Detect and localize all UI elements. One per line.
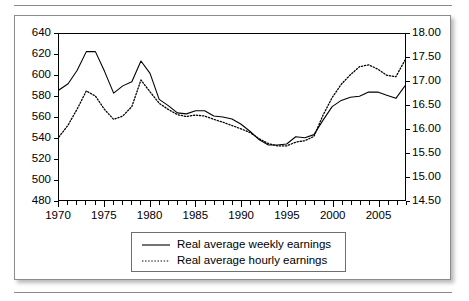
plot-area xyxy=(58,33,406,201)
series-line-weekly xyxy=(59,52,405,145)
y-tick-left xyxy=(54,138,58,139)
legend-item-hourly: Real average hourly earnings xyxy=(132,253,345,269)
chart-lines-svg xyxy=(59,34,405,200)
x-tick-major xyxy=(150,201,151,207)
x-tick-label: 1995 xyxy=(274,210,300,222)
y-tick-label-left: 540 xyxy=(15,132,51,144)
y-tick-label-right: 18.00 xyxy=(412,27,441,39)
x-tick xyxy=(388,201,389,205)
solid-line-icon xyxy=(142,240,170,250)
x-tick-major xyxy=(287,201,288,207)
legend-label-weekly: Real average weekly earnings xyxy=(177,239,331,251)
x-tick xyxy=(314,201,315,205)
x-tick xyxy=(168,201,169,205)
x-tick-label: 2005 xyxy=(366,210,392,222)
y-tick-right xyxy=(406,105,410,106)
x-tick xyxy=(324,201,325,205)
y-tick-left xyxy=(54,180,58,181)
x-tick-major xyxy=(241,201,242,207)
x-tick xyxy=(140,201,141,205)
y-tick-right xyxy=(406,33,410,34)
y-tick-label-left: 620 xyxy=(15,48,51,60)
y-tick-right xyxy=(406,177,410,178)
y-tick-label-right: 16.50 xyxy=(412,99,441,111)
series-line-hourly xyxy=(59,60,405,146)
x-tick-label: 2000 xyxy=(320,210,346,222)
x-tick xyxy=(259,201,260,205)
y-tick-right xyxy=(406,81,410,82)
x-tick xyxy=(278,201,279,205)
x-tick-major xyxy=(195,201,196,207)
y-tick-label-left: 640 xyxy=(15,27,51,39)
x-tick xyxy=(369,201,370,205)
chart-legend: Real average weekly earnings Real averag… xyxy=(131,232,346,272)
x-tick xyxy=(214,201,215,205)
y-tick-label-right: 16.00 xyxy=(412,123,441,135)
x-tick xyxy=(76,201,77,205)
x-tick xyxy=(342,201,343,205)
x-tick xyxy=(159,201,160,205)
bottom-divider-rule xyxy=(14,292,452,293)
x-tick-label: 1985 xyxy=(183,210,209,222)
x-tick xyxy=(406,201,407,205)
y-tick-right xyxy=(406,153,410,154)
y-tick-label-left: 520 xyxy=(15,153,51,165)
x-tick xyxy=(397,201,398,205)
x-tick-label: 1990 xyxy=(228,210,254,222)
y-tick-right xyxy=(406,57,410,58)
y-tick-left xyxy=(54,117,58,118)
y-tick-label-left: 500 xyxy=(15,174,51,186)
x-tick xyxy=(250,201,251,205)
y-tick-label-right: 17.00 xyxy=(412,75,441,87)
y-tick-left xyxy=(54,75,58,76)
y-tick-label-right: 17.50 xyxy=(412,51,441,63)
x-tick xyxy=(232,201,233,205)
x-tick xyxy=(67,201,68,205)
dotted-line-icon xyxy=(142,256,170,266)
y-tick-label-left: 580 xyxy=(15,90,51,102)
x-tick-major xyxy=(379,201,380,207)
legend-label-hourly: Real average hourly earnings xyxy=(177,255,327,267)
x-tick xyxy=(177,201,178,205)
y-tick-label-left: 480 xyxy=(15,195,51,207)
top-divider-rule xyxy=(14,5,452,6)
chart-figure-box: Real average weekly earnings Real averag… xyxy=(14,15,451,280)
x-tick xyxy=(351,201,352,205)
x-tick-major xyxy=(333,201,334,207)
x-tick xyxy=(305,201,306,205)
y-tick-left xyxy=(54,54,58,55)
y-tick-label-right: 15.50 xyxy=(412,147,441,159)
x-tick xyxy=(95,201,96,205)
x-tick-label: 1970 xyxy=(45,210,71,222)
y-tick-left xyxy=(54,96,58,97)
x-tick-major xyxy=(104,201,105,207)
x-tick xyxy=(205,201,206,205)
y-tick-left xyxy=(54,159,58,160)
x-tick xyxy=(360,201,361,205)
x-tick xyxy=(131,201,132,205)
x-tick-label: 1975 xyxy=(91,210,117,222)
y-tick-label-right: 14.50 xyxy=(412,195,441,207)
legend-item-weekly: Real average weekly earnings xyxy=(132,237,345,253)
y-tick-right xyxy=(406,129,410,130)
x-tick-major xyxy=(58,201,59,207)
x-tick xyxy=(296,201,297,205)
y-tick-label-left: 560 xyxy=(15,111,51,123)
y-tick-label-left: 600 xyxy=(15,69,51,81)
x-tick xyxy=(223,201,224,205)
x-tick xyxy=(186,201,187,205)
x-tick xyxy=(113,201,114,205)
x-tick xyxy=(122,201,123,205)
x-tick-label: 1980 xyxy=(137,210,163,222)
x-tick xyxy=(85,201,86,205)
x-tick xyxy=(269,201,270,205)
y-tick-left xyxy=(54,33,58,34)
y-tick-label-right: 15.00 xyxy=(412,171,441,183)
